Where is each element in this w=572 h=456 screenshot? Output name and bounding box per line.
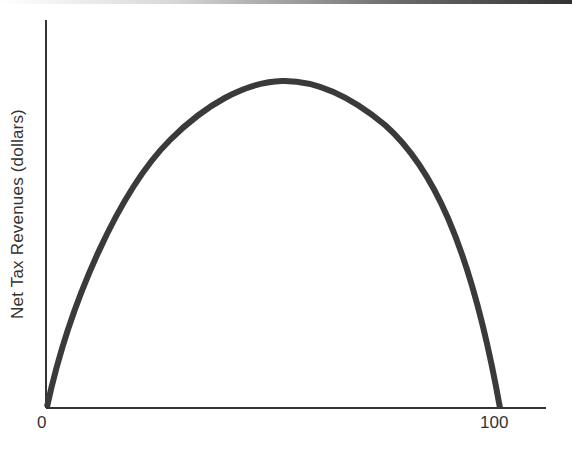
y-axis-label: Net Tax Revenues (dollars): [8, 109, 28, 319]
laffer-curve: [47, 81, 500, 408]
x-tick-label-100: 100: [480, 413, 508, 433]
x-tick-label-0: 0: [37, 413, 46, 433]
chart-canvas: [0, 0, 572, 456]
